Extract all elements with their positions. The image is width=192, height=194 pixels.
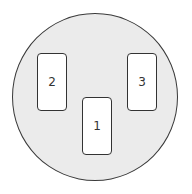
slot-1-label: 1 (93, 119, 101, 133)
slot-2: 2 (37, 53, 67, 111)
slot-1: 1 (82, 97, 112, 155)
slot-3-label: 3 (138, 75, 146, 89)
slot-2-label: 2 (48, 75, 56, 89)
slot-3: 3 (127, 53, 157, 111)
